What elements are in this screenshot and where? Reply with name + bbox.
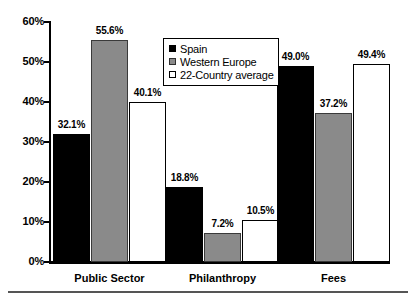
- bar-value-label: 32.1%: [51, 120, 92, 130]
- y-axis-tick: [44, 261, 50, 263]
- legend-item-western-europe: Western Europe: [169, 55, 273, 68]
- chart-legend: Spain Western Europe 22-Country average: [163, 38, 279, 86]
- legend-item-spain: Spain: [169, 42, 273, 55]
- bar-22-country-average-fees: [353, 64, 390, 262]
- footer-divider: [8, 291, 408, 293]
- bar-western-europe-fees: [315, 113, 352, 262]
- y-axis-tick-label: 40%: [23, 96, 44, 107]
- y-axis-tick: [44, 221, 50, 223]
- bar-spain-fees: [277, 66, 314, 262]
- legend-swatch-icon-22-country-average: [169, 71, 176, 78]
- legend-swatch-icon-western-europe: [169, 58, 176, 65]
- legend-swatch-icon-spain: [169, 45, 176, 52]
- bar-value-label: 18.8%: [164, 173, 205, 183]
- bar-22-country-average-public-sector: [129, 102, 166, 262]
- bar-value-label: 49.4%: [351, 50, 392, 60]
- legend-label-western-europe: Western Europe: [180, 56, 256, 68]
- legend-label-spain: Spain: [180, 43, 207, 55]
- y-axis-tick-label: 30%: [23, 136, 44, 147]
- y-axis-tick: [44, 181, 50, 183]
- bar-chart: 60%50%40%30%20%10%0% 32.1%55.6%40.1%18.8…: [0, 0, 416, 304]
- y-axis-tick-label: 0%: [29, 256, 45, 267]
- bar-value-label: 37.2%: [313, 99, 354, 109]
- y-axis-tick-label: 10%: [23, 216, 44, 227]
- bar-western-europe-public-sector: [91, 40, 128, 262]
- y-axis-tick: [44, 21, 50, 23]
- legend-label-22-country-average: 22-Country average: [180, 69, 274, 81]
- y-axis-tick: [44, 141, 50, 143]
- legend-item-22-country-average: 22-Country average: [169, 68, 273, 81]
- bar-spain-philanthropy: [166, 187, 203, 262]
- bar-value-label: 40.1%: [127, 88, 168, 98]
- bar-value-label: 7.2%: [202, 219, 243, 229]
- y-axis-tick-label: 60%: [23, 16, 44, 27]
- bar-value-label: 55.6%: [89, 26, 130, 36]
- bar-western-europe-philanthropy: [204, 233, 241, 262]
- bar-22-country-average-philanthropy: [242, 220, 279, 262]
- bar-value-label: 49.0%: [275, 52, 316, 62]
- bar-spain-public-sector: [53, 134, 90, 262]
- y-axis-tick-label: 20%: [23, 176, 44, 187]
- y-axis-tick-label: 50%: [23, 56, 44, 67]
- category-label-fees: Fees: [262, 272, 405, 284]
- y-axis-tick: [44, 101, 50, 103]
- bar-value-label: 10.5%: [240, 206, 281, 216]
- y-axis-tick: [44, 61, 50, 63]
